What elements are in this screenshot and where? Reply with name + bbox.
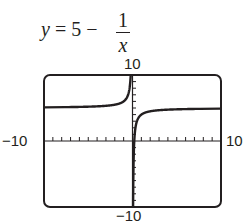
curve-right-branch xyxy=(133,109,221,207)
curve-left-branch xyxy=(44,75,131,107)
graph-plot xyxy=(0,0,246,221)
